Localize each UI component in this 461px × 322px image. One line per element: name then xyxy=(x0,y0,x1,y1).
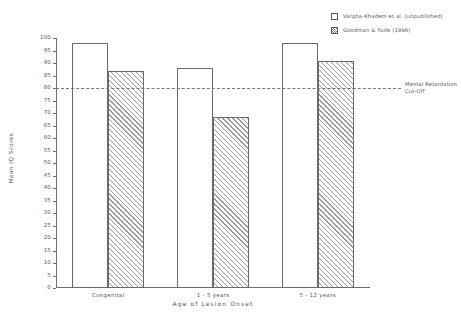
y-axis-tick-label: 55 xyxy=(44,148,51,153)
y-axis-tick-label: 10 xyxy=(44,260,51,265)
y-axis-tick-label: 85 xyxy=(44,73,51,78)
y-axis-title: Mean IQ Scores xyxy=(8,123,14,193)
y-axis-tick-label: 60 xyxy=(44,135,51,140)
x-axis-category-label: 1 - 5 years xyxy=(197,292,230,298)
chart-plot-area: 0510152025303540455055606570758085909510… xyxy=(56,38,370,288)
x-axis-title: Age of Lesion Onset xyxy=(56,300,370,307)
y-axis-tick-label: 20 xyxy=(44,235,51,240)
y-axis-tick-label: 15 xyxy=(44,248,51,253)
x-axis-category-label: 5 - 12 years xyxy=(299,292,335,298)
x-axis-category-label: Congenital xyxy=(92,292,125,298)
y-axis-tick-label: 90 xyxy=(44,60,51,65)
y-axis-tick xyxy=(53,188,56,189)
y-axis-tick-label: 0 xyxy=(47,285,51,290)
y-axis-tick xyxy=(53,238,56,239)
y-axis-tick-label: 95 xyxy=(44,48,51,53)
y-axis-tick xyxy=(53,251,56,252)
y-axis-tick xyxy=(53,126,56,127)
y-axis-tick xyxy=(53,201,56,202)
y-axis-tick xyxy=(53,113,56,114)
bar xyxy=(213,117,249,288)
chart-legend: Vargha-Khadem et al. (unpublished) Goodm… xyxy=(331,12,461,40)
y-axis-tick xyxy=(53,76,56,77)
bar xyxy=(72,43,108,288)
y-axis-tick-label: 70 xyxy=(44,110,51,115)
y-axis-tick-label: 80 xyxy=(44,85,51,90)
bar xyxy=(282,43,318,288)
y-axis-tick xyxy=(53,138,56,139)
y-axis-tick-label: 45 xyxy=(44,173,51,178)
y-axis-tick xyxy=(53,213,56,214)
y-axis-tick-label: 75 xyxy=(44,98,51,103)
y-axis-tick xyxy=(53,51,56,52)
cutoff-label-line-2: Cut-Off xyxy=(405,88,457,95)
y-axis-tick xyxy=(53,101,56,102)
cutoff-label-line-1: Mental Retardation xyxy=(405,81,457,88)
y-axis-tick xyxy=(53,151,56,152)
legend-item-label: Vargha-Khadem et al. (unpublished) xyxy=(343,12,443,20)
y-axis-tick xyxy=(53,263,56,264)
legend-item-label: Goodman & Yude (1996) xyxy=(343,26,411,34)
y-axis-tick-label: 100 xyxy=(40,35,51,40)
bar xyxy=(318,61,354,289)
cutoff-annotation-label: Mental RetardationCut-Off xyxy=(405,81,457,95)
open-square-icon xyxy=(331,13,338,20)
y-axis-tick-label: 30 xyxy=(44,210,51,215)
legend-item: Goodman & Yude (1996) xyxy=(331,26,461,36)
y-axis-tick-label: 65 xyxy=(44,123,51,128)
y-axis-tick-label: 35 xyxy=(44,198,51,203)
y-axis-tick xyxy=(53,226,56,227)
y-axis-line xyxy=(56,38,57,288)
y-axis-tick xyxy=(53,63,56,64)
hatched-square-icon xyxy=(331,27,338,34)
cutoff-dashed-line xyxy=(56,88,401,89)
y-axis-tick-label: 25 xyxy=(44,223,51,228)
y-axis-tick-label: 50 xyxy=(44,160,51,165)
bar xyxy=(177,68,213,288)
y-axis-tick xyxy=(53,176,56,177)
y-axis-tick xyxy=(53,38,56,39)
y-axis-tick-label: 5 xyxy=(47,273,51,278)
y-axis-tick xyxy=(53,288,56,289)
y-axis-tick xyxy=(53,276,56,277)
legend-item: Vargha-Khadem et al. (unpublished) xyxy=(331,12,461,22)
y-axis-tick-label: 40 xyxy=(44,185,51,190)
y-axis-tick xyxy=(53,163,56,164)
bar xyxy=(108,71,144,289)
